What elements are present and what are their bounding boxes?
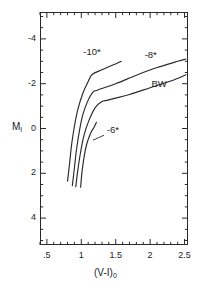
y-axis-ticks-right [182, 16, 188, 240]
x-axis-title-sub: 0 [113, 272, 117, 279]
x-tick-label: 1 [79, 250, 84, 260]
y-tick-label: -4 [14, 33, 36, 43]
leader-line-minus6 [93, 135, 104, 140]
x-axis-title-main: (V-I) [94, 267, 113, 278]
y-tick-label: 4 [14, 212, 36, 222]
x-tick-label: 1.5 [109, 250, 122, 260]
y-axis-ticks-left [40, 16, 46, 240]
y-tick-label: 2 [14, 167, 36, 177]
chart-figure: .511.522.5 -4-2024 -10*-8*BW-6* (V-I)0 M… [0, 0, 199, 293]
y-axis-title: MI [12, 121, 22, 132]
y-tick-label: -2 [14, 78, 36, 88]
curve-label-BW: BW [152, 78, 167, 89]
curve-10 [68, 61, 122, 181]
x-tick-label: .5 [43, 250, 51, 260]
y-axis-title-sub: I [20, 126, 22, 133]
x-tick-label: 2 [148, 250, 153, 260]
curve-label-10: -10* [83, 46, 100, 57]
annotation-leader-lines [93, 135, 104, 140]
x-axis-ticks-bottom [40, 239, 185, 245]
x-axis-title: (V-I)0 [94, 267, 117, 278]
curve-6 [81, 122, 97, 187]
data-curves [68, 59, 186, 187]
curve-label-8: -8* [145, 49, 157, 60]
x-tick-label: 2.5 [178, 250, 191, 260]
chart-canvas [0, 0, 199, 293]
x-axis-ticks-top [40, 12, 185, 18]
curve-label-6: -6* [107, 124, 119, 135]
